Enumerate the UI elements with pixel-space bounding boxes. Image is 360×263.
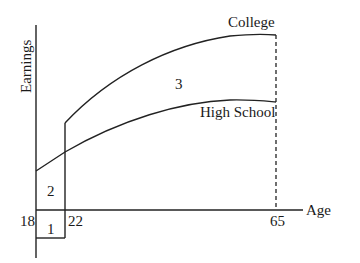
y-axis-label: Earnings: [18, 40, 34, 93]
earnings-diagram: Earnings Age 18 22 65 College High Schoo…: [0, 0, 360, 263]
region-2-label: 2: [47, 183, 55, 199]
high-school-label: High School: [200, 104, 275, 120]
college-label: College: [228, 14, 275, 30]
x-axis-label: Age: [306, 202, 331, 218]
tick-22: 22: [68, 213, 83, 229]
tick-18: 18: [20, 213, 35, 229]
tick-65: 65: [270, 213, 285, 229]
region-1-label: 1: [47, 221, 55, 237]
region-3-label: 3: [175, 76, 183, 92]
